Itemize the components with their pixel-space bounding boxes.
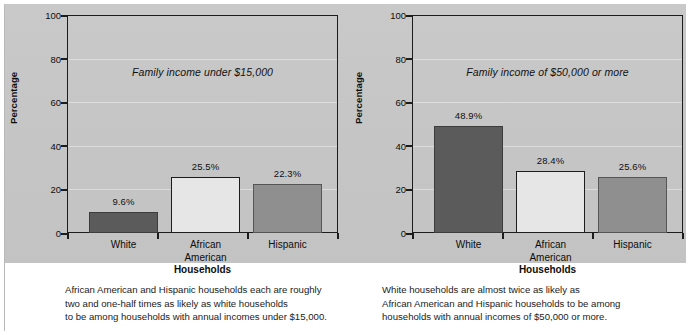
x-axis-title: Households xyxy=(67,264,338,275)
panel-caption: White households are almost twice as lik… xyxy=(382,283,662,324)
panel-caption: African American and Hispanic households… xyxy=(65,283,343,324)
x-category-white: White xyxy=(456,239,482,252)
x-tick-1 xyxy=(157,233,159,239)
chart-panel-50000-or-more: Percentage 0 20 40 60 80 100 Family inco… xyxy=(345,0,690,335)
x-tick-end xyxy=(682,233,684,239)
x-tick-1 xyxy=(502,233,504,239)
x-category-african-american: African American xyxy=(529,239,571,264)
y-tick-label-0: 0 xyxy=(34,228,61,239)
x-tick-2 xyxy=(247,233,249,239)
y-tick-label-80: 80 xyxy=(379,53,406,64)
y-tick-label-80: 80 xyxy=(34,53,61,64)
y-tick-label-60: 60 xyxy=(379,97,406,108)
y-tick-label-20: 20 xyxy=(379,184,406,195)
y-axis-tick-labels: 0 20 40 60 80 100 xyxy=(379,15,406,233)
x-tick-end xyxy=(337,233,339,239)
bar-value-hispanic: 25.6% xyxy=(619,161,646,172)
y-axis-title: Percentage xyxy=(353,72,364,124)
bar-african-american[interactable] xyxy=(516,171,585,233)
x-tick-start xyxy=(67,233,69,239)
bars-layer xyxy=(67,15,338,233)
x-tick-start xyxy=(412,233,414,239)
bar-hispanic[interactable] xyxy=(598,177,667,233)
y-tick-label-0: 0 xyxy=(379,228,406,239)
bar-white[interactable] xyxy=(89,212,158,233)
bar-hispanic[interactable] xyxy=(253,184,322,233)
y-tick-label-100: 100 xyxy=(379,10,406,21)
x-tick-2 xyxy=(592,233,594,239)
x-category-hispanic: Hispanic xyxy=(613,239,651,252)
chart-panel-under-15000: Percentage 0 20 40 60 80 100 Family inco… xyxy=(0,0,345,335)
bar-white[interactable] xyxy=(434,126,503,233)
y-tick-label-40: 40 xyxy=(34,140,61,151)
x-axis-title: Households xyxy=(412,264,683,275)
x-category-hispanic: Hispanic xyxy=(268,239,306,252)
bar-value-white: 9.6% xyxy=(112,196,134,207)
bar-value-hispanic: 22.3% xyxy=(274,168,301,179)
figure-container: Percentage 0 20 40 60 80 100 Family inco… xyxy=(0,0,690,335)
y-tick-label-60: 60 xyxy=(34,97,61,108)
y-tick-label-40: 40 xyxy=(379,140,406,151)
y-axis-title: Percentage xyxy=(8,72,19,124)
bar-value-african-american: 28.4% xyxy=(537,155,564,166)
y-axis-tick-labels: 0 20 40 60 80 100 xyxy=(34,15,61,233)
x-category-white: White xyxy=(111,239,137,252)
bars-layer xyxy=(412,15,683,233)
bar-african-american[interactable] xyxy=(171,177,240,233)
bar-value-white: 48.9% xyxy=(455,110,482,121)
bar-value-african-american: 25.5% xyxy=(192,161,219,172)
y-tick-label-100: 100 xyxy=(34,10,61,21)
y-tick-label-20: 20 xyxy=(34,184,61,195)
x-category-african-american: African American xyxy=(184,239,226,264)
